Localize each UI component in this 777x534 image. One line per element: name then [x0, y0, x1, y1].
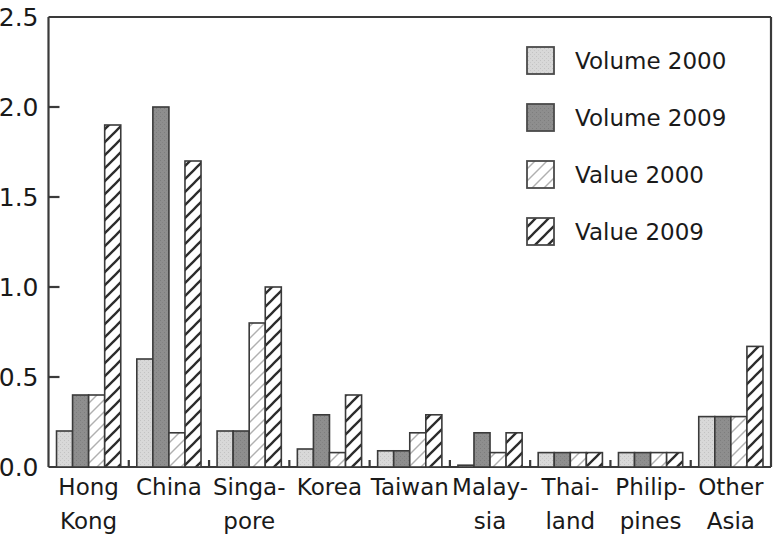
- bar: [426, 415, 442, 467]
- bar: [89, 395, 105, 467]
- bar: [233, 431, 249, 467]
- y-tick-label: 2.5: [0, 3, 39, 32]
- bar: [635, 453, 651, 467]
- bar: [73, 395, 89, 467]
- bar: [747, 346, 763, 467]
- bar: [586, 453, 602, 467]
- bar: [105, 125, 121, 467]
- bar: [153, 107, 169, 467]
- legend-label: Volume 2009: [575, 105, 726, 131]
- bar: [538, 453, 554, 467]
- x-category-label: Kong: [60, 508, 117, 534]
- y-tick-label: 1.0: [0, 273, 39, 302]
- bar: [731, 417, 747, 467]
- bar: [458, 465, 474, 467]
- bar: [217, 431, 233, 467]
- x-category-label: Singa-: [213, 474, 286, 500]
- x-category-label: Taiwan: [370, 474, 449, 500]
- x-category-label: Other: [698, 474, 764, 500]
- bar: [378, 451, 394, 467]
- x-category-label: land: [545, 508, 595, 534]
- bar: [329, 453, 345, 467]
- bar: [265, 287, 281, 467]
- bar: [313, 415, 329, 467]
- bar: [618, 453, 634, 467]
- bar: [474, 433, 490, 467]
- y-tick-label: 0.0: [0, 453, 39, 482]
- bar: [506, 433, 522, 467]
- y-axis-group: 0.00.51.01.52.02.5: [0, 3, 60, 482]
- bar: [570, 453, 586, 467]
- x-category-label: Philip-: [615, 474, 686, 500]
- x-category-label: pines: [620, 508, 682, 534]
- x-category-label: China: [136, 474, 202, 500]
- y-tick-label: 1.5: [0, 183, 39, 212]
- bar: [185, 161, 201, 467]
- y-axis-tick-labels: 0.00.51.01.52.02.5: [0, 3, 39, 482]
- chart-legend: Volume 2000Volume 2009Value 2000Value 20…: [527, 47, 726, 245]
- bar: [169, 433, 185, 467]
- y-axis-ticks: [49, 107, 60, 377]
- bar: [667, 453, 683, 467]
- bar: [699, 417, 715, 467]
- x-category-label: Malay-: [452, 474, 528, 500]
- x-category-label: sia: [474, 508, 506, 534]
- x-category-label: Korea: [297, 474, 362, 500]
- legend-label: Value 2009: [575, 219, 704, 245]
- legend-swatch: [527, 161, 554, 188]
- bar: [346, 395, 362, 467]
- chart-canvas: 0.00.51.01.52.02.5 HongKongChinaSinga-po…: [0, 0, 777, 534]
- bar: [297, 449, 313, 467]
- bar: [651, 453, 667, 467]
- bar: [249, 323, 265, 467]
- category-labels-layer: HongKongChinaSinga-poreKoreaTaiwanMalay-…: [58, 474, 764, 534]
- legend-swatch: [527, 218, 554, 245]
- bar-chart: 0.00.51.01.52.02.5 HongKongChinaSinga-po…: [0, 0, 777, 534]
- bar: [715, 417, 731, 467]
- legend-swatch: [527, 104, 554, 131]
- bar: [394, 451, 410, 467]
- bar: [554, 453, 570, 467]
- x-category-label: Hong: [58, 474, 119, 500]
- y-tick-label: 0.5: [0, 363, 39, 392]
- legend-label: Volume 2000: [575, 48, 726, 74]
- x-category-label: Thai-: [541, 474, 599, 500]
- bar: [410, 433, 426, 467]
- legend-label: Value 2000: [575, 162, 704, 188]
- bar: [137, 359, 153, 467]
- bars-layer: [57, 107, 763, 467]
- legend-swatch: [527, 47, 554, 74]
- x-category-label: pore: [223, 508, 275, 534]
- bar: [57, 431, 73, 467]
- x-category-label: Asia: [707, 508, 755, 534]
- bar: [490, 453, 506, 467]
- y-tick-label: 2.0: [0, 93, 39, 122]
